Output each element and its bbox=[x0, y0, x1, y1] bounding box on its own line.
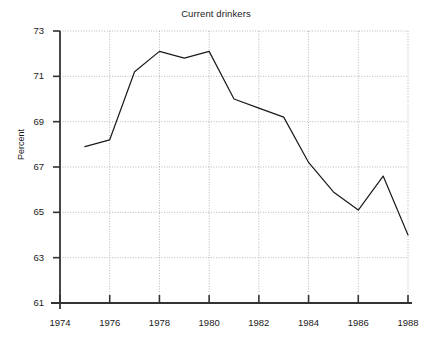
plot-area bbox=[0, 0, 432, 357]
chart-container: Current drinkers Percent 61636567697173 … bbox=[0, 0, 432, 357]
data-series-line bbox=[85, 51, 408, 235]
axis-lines bbox=[51, 31, 412, 309]
grid-lines bbox=[60, 31, 408, 303]
